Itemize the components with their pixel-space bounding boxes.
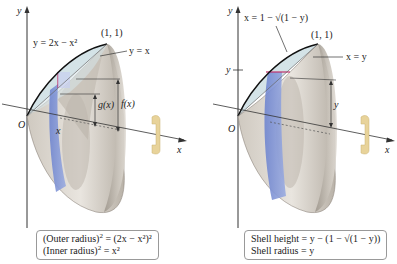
shell-radius-formula: Shell radius = y — [251, 245, 380, 257]
origin-label: O — [18, 120, 25, 130]
point-label: (1, 1) — [101, 28, 123, 38]
point-label: (1, 1) — [311, 30, 333, 40]
line-label: x = y — [346, 52, 367, 62]
y-tick-label: y — [226, 65, 230, 75]
rotation-arrow-icon — [152, 116, 160, 154]
f-label: f(x) — [121, 99, 135, 109]
x-axis-label: x — [385, 145, 389, 155]
curve-label: x = 1 − √(1 − y) — [244, 13, 308, 23]
height-label: y — [334, 100, 338, 110]
inner-surface — [62, 94, 90, 190]
x-axis-label: x — [177, 145, 181, 155]
y-axis-label: y — [228, 6, 232, 16]
shell-height-formula: Shell height = y − (1 − √(1 − y)) — [251, 233, 380, 245]
x-axis-arrow-icon — [178, 138, 187, 143]
left-caption-box: (Outer radius)2 = (2x − x²)² (Inner radi… — [36, 230, 159, 260]
y-axis-arrow-icon — [236, 6, 241, 13]
rotation-arrow-icon — [361, 116, 369, 154]
right-caption-box: Shell height = y − (1 − √(1 − y)) Shell … — [244, 230, 387, 260]
leader-curve — [276, 26, 287, 52]
x-marker-label: x — [56, 126, 60, 136]
g-label: g(x) — [98, 100, 114, 110]
origin-label: O — [228, 124, 235, 134]
inner-radius-formula: (Inner radius)2 = x² — [43, 245, 152, 257]
line-label: y = x — [129, 46, 150, 56]
x-axis-arrow-icon — [386, 138, 395, 143]
y-axis-arrow-icon — [25, 6, 30, 13]
left-washer-diagram — [2, 6, 187, 228]
y-axis-label: y — [17, 6, 21, 16]
curve-label: y = 2x − x² — [33, 38, 77, 48]
right-shell-diagram — [213, 6, 395, 228]
